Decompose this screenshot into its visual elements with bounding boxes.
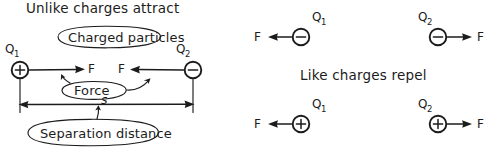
repel-neg-left-force-label: F <box>254 30 261 44</box>
attract-right-force-arrowhead <box>130 66 140 74</box>
attract-left-force-label: F <box>88 62 95 76</box>
separation-distance-callout: Separation distance <box>28 105 172 145</box>
repel-pos-left-force-arrow: F <box>254 117 292 131</box>
repel-pos-right-force-label: F <box>477 117 484 131</box>
diagram-canvas: Unlike charges attract Charged particles… <box>0 0 500 152</box>
repel-pos-right-force-arrowhead <box>462 120 472 127</box>
charged-particles-callout: Charged particles <box>58 26 185 48</box>
repel-pos-right-charge: Q 2 <box>418 97 446 132</box>
attract-right-force-label: F <box>118 62 125 76</box>
attract-positive-charge <box>12 62 29 79</box>
repel-pos-left-force-arrowhead <box>268 120 278 127</box>
force-leader-right-arrowhead <box>144 78 151 84</box>
separation-distance-symbol: s <box>101 92 108 107</box>
repel-pos-left-plus-icon <box>296 119 305 128</box>
attract-left-charge-label: Q 1 <box>5 42 19 59</box>
attract-right-charge-subscript: 2 <box>185 49 190 59</box>
attract-title: Unlike charges attract <box>26 0 179 16</box>
force-leader-right <box>127 81 149 90</box>
repel-neg-left-force-arrowhead <box>268 33 278 40</box>
repel-pos-left-charge: Q 1 <box>293 97 327 132</box>
repel-pos-left-charge-subscript: 1 <box>321 104 326 114</box>
repel-neg-right-force-arrow: F <box>448 30 485 44</box>
repel-pos-right-force-arrow: F <box>448 117 485 131</box>
repel-neg-right-charge-subscript: 2 <box>427 17 432 27</box>
repel-neg-left-force-arrow: F <box>254 30 292 44</box>
repel-pos-right-plus-icon <box>433 119 442 128</box>
charged-particles-label: Charged particles <box>68 30 185 45</box>
plus-sign-icon <box>15 65 24 74</box>
repel-neg-left-charge: Q 1 <box>293 10 327 45</box>
attract-right-charge-label: Q 2 <box>176 42 190 59</box>
attract-right-force-arrow: F <box>118 62 184 76</box>
repel-pos-left-force-label: F <box>254 117 261 131</box>
repel-neg-right-force-arrowhead <box>462 33 472 40</box>
attract-left-force-arrowhead <box>75 66 85 74</box>
attract-left-charge-subscript: 1 <box>14 49 19 59</box>
attract-left-force-line <box>30 69 78 70</box>
repel-neg-right-charge: Q 2 <box>418 10 446 45</box>
repel-neg-left-charge-subscript: 1 <box>321 17 326 27</box>
physics-sketch: Unlike charges attract Charged particles… <box>0 0 500 152</box>
separation-distance-label: Separation distance <box>40 126 172 141</box>
attract-negative-charge <box>185 62 202 79</box>
repel-title: Like charges repel <box>300 67 427 83</box>
repel-pos-right-charge-subscript: 2 <box>427 104 432 114</box>
repel-neg-right-force-label: F <box>477 30 484 44</box>
attract-left-force-arrow: F <box>30 62 96 76</box>
